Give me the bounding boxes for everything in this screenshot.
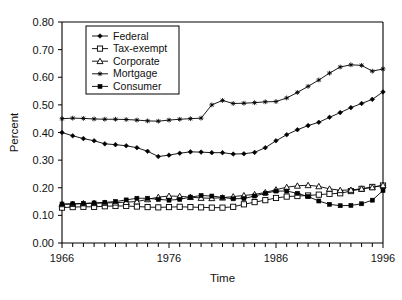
marker-asterisk <box>177 117 182 122</box>
x-tick-label: 1996 <box>371 252 395 264</box>
marker-open-square <box>327 191 332 196</box>
marker-asterisk <box>188 116 193 121</box>
marker-filled-square <box>349 203 353 207</box>
marker-filled-square <box>370 198 374 202</box>
marker-filled-square <box>92 201 96 205</box>
marker-filled-diamond <box>60 130 65 135</box>
marker-open-square <box>284 194 289 199</box>
y-tick-label: 0.80 <box>33 16 54 28</box>
marker-filled-square <box>188 195 192 199</box>
marker-open-square <box>273 195 278 200</box>
marker-asterisk <box>156 119 161 124</box>
marker-asterisk <box>306 84 311 89</box>
marker-filled-diamond <box>359 101 364 106</box>
y-tick-label: 0.60 <box>33 71 54 83</box>
marker-filled-diamond <box>317 120 322 125</box>
marker-asterisk <box>70 116 75 121</box>
chart-legend: FederalTax-exemptCorporateMortgageConsum… <box>86 26 179 94</box>
series-corporate <box>59 182 386 206</box>
marker-asterisk <box>167 118 172 123</box>
marker-open-square <box>156 205 161 210</box>
marker-filled-square <box>98 84 102 88</box>
x-tick-label: 1976 <box>157 252 181 264</box>
marker-open-square <box>209 205 214 210</box>
x-axis-title: Time <box>210 272 235 284</box>
marker-filled-square <box>338 204 342 208</box>
marker-filled-square <box>60 202 64 206</box>
marker-filled-diamond <box>177 151 182 156</box>
marker-filled-diamond <box>263 145 268 150</box>
marker-filled-square <box>317 199 321 203</box>
marker-filled-diamond <box>284 132 289 137</box>
marker-filled-square <box>360 202 364 206</box>
marker-open-square <box>97 46 102 51</box>
marker-open-square <box>231 204 236 209</box>
legend-label: Mortgage <box>113 67 158 79</box>
marker-filled-diamond <box>252 150 257 155</box>
marker-asterisk <box>102 117 107 122</box>
marker-filled-square <box>306 195 310 199</box>
marker-open-square <box>316 192 321 197</box>
y-tick-label: 0.70 <box>33 44 54 56</box>
marker-asterisk <box>349 62 354 67</box>
y-tick-label: 0.00 <box>33 237 54 249</box>
marker-filled-diamond <box>92 138 97 143</box>
marker-asterisk <box>274 99 279 104</box>
marker-filled-diamond <box>145 149 150 154</box>
marker-asterisk <box>381 67 386 72</box>
marker-filled-diamond <box>199 150 204 155</box>
marker-asterisk <box>81 116 86 121</box>
marker-filled-diamond <box>295 127 300 132</box>
marker-filled-square <box>103 200 107 204</box>
marker-open-square <box>220 205 225 210</box>
marker-filled-square <box>328 202 332 206</box>
marker-filled-square <box>242 197 246 201</box>
marker-asterisk <box>252 100 257 105</box>
marker-asterisk <box>98 71 103 76</box>
marker-filled-diamond <box>338 110 343 115</box>
marker-filled-diamond <box>231 152 236 157</box>
marker-filled-diamond <box>124 143 129 148</box>
marker-filled-diamond <box>220 150 225 155</box>
line-chart: 0.000.100.200.300.400.500.600.700.80Perc… <box>0 0 402 300</box>
marker-filled-square <box>231 197 235 201</box>
marker-asterisk <box>370 69 375 74</box>
y-tick-label: 0.30 <box>33 154 54 166</box>
chart-figure: 0.000.100.200.300.400.500.600.700.80Perc… <box>0 0 402 300</box>
marker-asterisk <box>327 71 332 76</box>
marker-filled-square <box>178 197 182 201</box>
marker-filled-square <box>285 189 289 193</box>
marker-asterisk <box>295 90 300 95</box>
marker-filled-square <box>81 201 85 205</box>
marker-filled-square <box>210 194 214 198</box>
marker-open-square <box>177 204 182 209</box>
marker-filled-square <box>295 191 299 195</box>
marker-open-square <box>241 202 246 207</box>
marker-filled-diamond <box>327 115 332 120</box>
legend-label: Tax-exempt <box>113 42 167 54</box>
marker-asterisk <box>231 101 236 106</box>
x-tick-label: 1986 <box>264 252 288 264</box>
marker-asterisk <box>113 117 118 122</box>
marker-filled-square <box>199 193 203 197</box>
legend-label: Corporate <box>113 55 160 67</box>
marker-filled-square <box>381 189 385 193</box>
marker-asterisk <box>316 78 321 83</box>
marker-filled-square <box>146 196 150 200</box>
y-tick-label: 0.10 <box>33 209 54 221</box>
y-tick-label: 0.50 <box>33 99 54 111</box>
marker-filled-square <box>124 198 128 202</box>
marker-filled-square <box>71 202 75 206</box>
marker-asterisk <box>135 118 140 123</box>
marker-open-square <box>188 204 193 209</box>
marker-filled-square <box>167 198 171 202</box>
marker-asterisk <box>284 96 289 101</box>
y-axis-title: Percent <box>8 112 20 152</box>
marker-asterisk <box>220 98 225 103</box>
marker-asterisk <box>60 116 65 121</box>
legend-label: Federal <box>113 30 149 42</box>
marker-filled-diamond <box>135 145 140 150</box>
marker-filled-diamond <box>274 138 279 143</box>
marker-asterisk <box>338 65 343 70</box>
marker-asterisk <box>242 101 247 106</box>
